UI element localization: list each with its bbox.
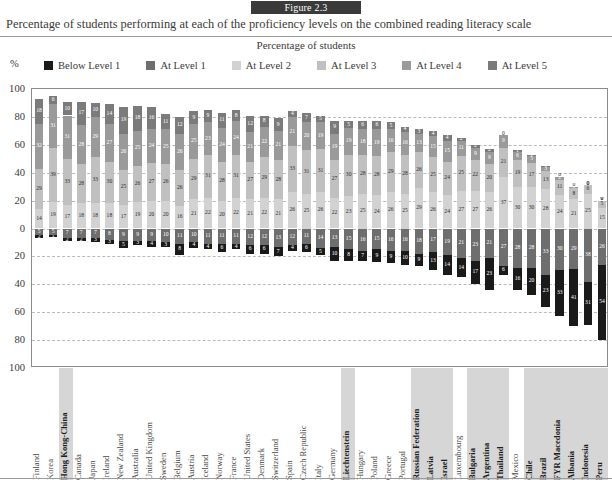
segment-below-level-1: 33 xyxy=(555,270,564,316)
segment-value-label: 20 xyxy=(161,212,170,218)
segment-value-label: 18 xyxy=(358,139,367,145)
x-axis-label-chile: Chile xyxy=(524,368,535,480)
segment-level-4: 32 xyxy=(35,124,44,169)
segment-level-4: 26 xyxy=(119,134,128,170)
segment-below-level-1: 23 xyxy=(485,258,494,290)
bar-thailand: 372190276 xyxy=(499,89,508,368)
segment-below-level-1: 9 xyxy=(415,254,424,267)
segment-level-4: 31 xyxy=(49,104,58,147)
segment-level-2: 24 xyxy=(443,195,452,228)
segment-level-2: 16 xyxy=(175,206,184,228)
segment-value-label: 19 xyxy=(372,140,381,146)
segment-value-label: 8 xyxy=(344,252,353,258)
segment-value-label: 5 xyxy=(387,123,396,129)
segment-level-5: 3 xyxy=(415,129,424,133)
segment-level-2: 26 xyxy=(429,192,438,228)
segment-value-label: 26 xyxy=(415,167,424,173)
segment-level-2: 14 xyxy=(35,209,44,229)
segment-value-label: 27 xyxy=(457,207,466,213)
segment-value-label: 9 xyxy=(415,257,424,263)
segment-level-2: 26 xyxy=(387,192,396,228)
segment-level-1: 38 xyxy=(584,229,593,282)
segment-value-label: 28 xyxy=(513,245,522,251)
segment-level-5: 1 xyxy=(513,150,522,151)
segment-value-label: 17 xyxy=(119,214,128,220)
segment-level-2: 20 xyxy=(147,201,156,229)
legend-item-4: At Level 4 xyxy=(402,60,461,71)
segment-value-label: 23 xyxy=(344,210,353,216)
segment-value-label: 2 xyxy=(485,149,494,152)
segment-value-label: 7 xyxy=(63,231,72,237)
segment-level-2: 18 xyxy=(105,203,114,228)
segment-value-label: 18 xyxy=(415,238,424,244)
segment-below-level-1: 2 xyxy=(77,238,86,241)
bar-mexico: 3019612816 xyxy=(513,89,522,368)
segment-level-5: 0 xyxy=(569,183,578,188)
x-axis-label-finland: Finland xyxy=(31,368,42,480)
segment-value-label: 25 xyxy=(358,208,367,214)
segment-level-2: 25 xyxy=(401,194,410,229)
segment-value-label: 4 xyxy=(443,135,452,141)
segment-level-5: 6 xyxy=(358,121,367,129)
segment-value-label: 21 xyxy=(246,144,255,150)
segment-value-label: 10 xyxy=(401,255,410,261)
segment-value-label: 28 xyxy=(358,171,367,177)
segment-level-3: 31 xyxy=(316,149,325,192)
bar-latvia: 26251541713 xyxy=(429,89,438,368)
segment-value-label: 29 xyxy=(35,186,44,192)
segment-value-label: 41 xyxy=(569,295,578,301)
segment-value-label: 11 xyxy=(161,119,170,125)
segment-value-label: 9 xyxy=(189,115,198,121)
segment-level-3: 11 xyxy=(555,180,564,195)
segment-value-label: 26 xyxy=(175,149,184,155)
segment-value-label: 30 xyxy=(105,180,114,186)
segment-level-1: 29 xyxy=(569,229,578,269)
segment-value-label: 9 xyxy=(330,125,339,131)
segment-value-label: 26 xyxy=(175,185,184,191)
x-axis-label-korea: Korea xyxy=(45,368,56,480)
segment-level-5: 4 xyxy=(429,131,438,137)
segment-level-1: 23 xyxy=(471,229,480,261)
segment-value-label: 27 xyxy=(499,245,508,251)
x-axis-label-denmark: Denmark xyxy=(256,368,267,480)
x-axis-label-italy: Italy xyxy=(313,368,324,480)
x-axis-label-peru: Peru xyxy=(594,368,605,480)
bar-france: 2231248114 xyxy=(232,89,241,368)
segment-value-label: 23 xyxy=(471,242,480,248)
segment-value-label: 19 xyxy=(443,239,452,245)
segment-below-level-1: 7 xyxy=(274,247,283,257)
segment-value-label: 5 xyxy=(316,249,325,255)
segment-value-label: 25 xyxy=(401,208,410,214)
segment-value-label: 27 xyxy=(105,140,114,146)
bar-belgium: 16262612118 xyxy=(175,89,184,368)
segment-value-label: 24 xyxy=(147,143,156,149)
y-axis-tick-label: 60 xyxy=(14,306,25,317)
segment-level-4: 19 xyxy=(344,128,353,155)
bar-hungary: 2528186167 xyxy=(358,89,367,368)
legend-swatch-icon xyxy=(146,61,155,70)
segment-value-label: 15 xyxy=(372,236,381,242)
segment-value-label: 9 xyxy=(204,113,213,119)
segment-level-3: 17 xyxy=(527,163,536,187)
segment-level-5: 10 xyxy=(91,103,100,117)
x-axis-label-ireland: Ireland xyxy=(101,368,112,480)
segment-level-1: 5 xyxy=(49,229,58,236)
segment-value-label: 31 xyxy=(316,168,325,174)
segment-value-label: 8 xyxy=(260,118,269,124)
segment-level-5: 4 xyxy=(401,127,410,133)
segment-value-label: 22 xyxy=(260,210,269,216)
segment-below-level-1: 3 xyxy=(133,241,142,245)
segment-value-label: 15 xyxy=(598,215,607,221)
segment-level-3: 31 xyxy=(232,155,241,198)
segment-level-3: 27 xyxy=(330,160,339,198)
segment-level-3: 26 xyxy=(175,170,184,206)
segment-level-1: 13 xyxy=(330,229,339,247)
segment-below-level-1: 6 xyxy=(246,245,255,253)
x-axis-label-argentina: Argentina xyxy=(481,368,492,480)
segment-value-label: 11 xyxy=(175,233,184,239)
segment-value-label: 19 xyxy=(119,118,128,124)
bar-austria: 2129259104 xyxy=(189,89,198,368)
segment-value-label: 5 xyxy=(49,229,58,235)
segment-value-label: 8 xyxy=(105,231,114,237)
segment-value-label: 11 xyxy=(457,145,466,151)
